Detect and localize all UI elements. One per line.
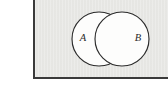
set-label-a: A xyxy=(79,32,87,43)
venn-diagram-svg: A B xyxy=(0,0,168,91)
venn-diagram-figure: A B xyxy=(0,0,168,91)
set-label-b: B xyxy=(135,32,142,43)
